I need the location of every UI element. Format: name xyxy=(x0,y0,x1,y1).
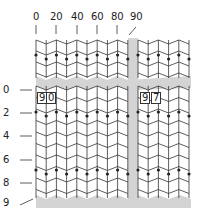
left-axis-label: 2 xyxy=(3,108,9,118)
left-axis-label: 8 xyxy=(3,178,9,188)
left-axis-label: 9 xyxy=(3,198,9,208)
herringbone-diagram xyxy=(0,0,202,218)
top-axis-label: 20 xyxy=(50,12,63,22)
zigzag-grid xyxy=(36,40,189,198)
top-axis-label: 0 xyxy=(33,12,39,22)
boxed-label: 0 xyxy=(46,92,56,104)
boxed-label: 7 xyxy=(151,92,161,104)
top-axis-label: 40 xyxy=(71,12,84,22)
boxed-label: 9 xyxy=(140,92,150,104)
top-axis-label: 90 xyxy=(130,12,143,22)
left-axis-label: 6 xyxy=(3,155,9,165)
left-axis-label: 0 xyxy=(3,85,9,95)
top-axis-label: 80 xyxy=(111,12,124,22)
left-axis-label: 4 xyxy=(3,131,9,141)
top-axis-label: 60 xyxy=(91,12,104,22)
